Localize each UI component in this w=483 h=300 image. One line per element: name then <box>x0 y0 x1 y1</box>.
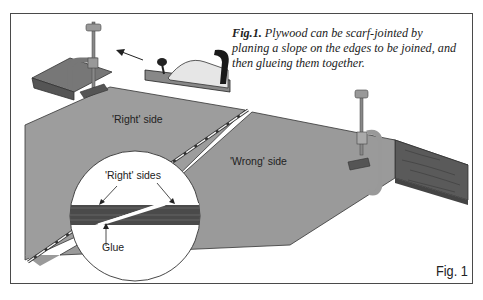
caption-fig-label: Fig.1. <box>232 26 262 40</box>
label-right-sides: 'Right' sides <box>105 169 161 181</box>
plane-tool <box>145 50 230 92</box>
figure-number: Fig. 1 <box>436 262 468 279</box>
figure-caption: Fig.1. Plywood can be scarf-jointed by p… <box>232 26 462 71</box>
direction-arrow-icon <box>116 49 143 60</box>
label-right-side: 'Right' side <box>112 113 163 125</box>
label-glue: Glue <box>102 241 124 253</box>
label-wrong-side: 'Wrong' side <box>230 155 287 167</box>
caption-text: Plywood can be scarf-jointed by planing … <box>232 26 456 70</box>
